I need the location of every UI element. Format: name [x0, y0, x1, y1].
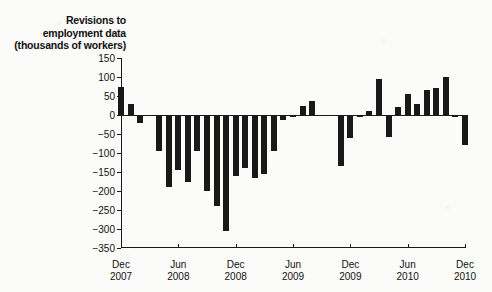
- bar: [242, 115, 248, 168]
- x-tick-label-month: Jun: [167, 259, 189, 271]
- bar: [319, 115, 325, 116]
- x-tick-label-month: Dec: [339, 259, 361, 271]
- bar: [357, 115, 363, 117]
- y-tick-label: −50: [98, 129, 115, 140]
- x-tick-mark: [121, 244, 122, 248]
- bar: [414, 104, 420, 115]
- x-tick-label-month: Dec: [225, 259, 247, 271]
- x-tick-label: Dec2010: [454, 259, 476, 282]
- bar: [424, 90, 430, 115]
- x-tick-label-month: Jun: [397, 259, 419, 271]
- y-tick-label: 0: [109, 110, 115, 121]
- y-tick-label: 150: [98, 53, 115, 64]
- bar: [261, 115, 267, 174]
- bar: [338, 115, 344, 166]
- y-tick-label: −300: [92, 224, 115, 235]
- x-tick-label-month: Dec: [454, 259, 476, 271]
- bar: [347, 115, 353, 138]
- bar: [376, 79, 382, 115]
- bar: [386, 115, 392, 137]
- x-tick-mark: [465, 244, 466, 248]
- bar: [194, 115, 200, 151]
- y-tick-label: −150: [92, 167, 115, 178]
- bar: [214, 115, 220, 206]
- bar: [204, 115, 210, 191]
- bar: [452, 115, 458, 117]
- bar: [280, 115, 286, 120]
- y-tick-label: −350: [92, 243, 115, 254]
- x-tick-mark: [408, 244, 409, 248]
- x-tick-label: Jun2009: [282, 259, 304, 282]
- bar: [443, 77, 449, 115]
- y-tick-mark: [117, 115, 121, 116]
- x-tick-label-year: 2009: [339, 271, 361, 283]
- bar: [328, 115, 334, 116]
- x-tick-label-month: Dec: [110, 259, 132, 271]
- bar: [175, 115, 181, 170]
- bar: [433, 88, 439, 115]
- x-tick-mark: [178, 244, 179, 248]
- y-tick-mark: [117, 58, 121, 59]
- y-tick-mark: [117, 172, 121, 173]
- y-tick-mark: [117, 229, 121, 230]
- y-tick-label: −250: [92, 205, 115, 216]
- chart-title: Revisions to employment data (thousands …: [0, 14, 126, 52]
- y-tick-label: 50: [104, 91, 115, 102]
- chart-title-line-1: Revisions to: [0, 14, 126, 27]
- x-tick-label-month: Jun: [282, 259, 304, 271]
- bar: [147, 115, 153, 116]
- y-tick-mark: [117, 210, 121, 211]
- y-tick-label: 100: [98, 72, 115, 83]
- x-tick-label: Dec2008: [225, 259, 247, 282]
- bar: [185, 115, 191, 182]
- x-tick-mark: [350, 244, 351, 248]
- x-tick-label-year: 2010: [454, 271, 476, 283]
- bar: [405, 94, 411, 115]
- x-tick-label: Dec2007: [110, 259, 132, 282]
- chart-title-line-3: (thousands of workers): [0, 39, 126, 52]
- chart-page: Revisions to employment data (thousands …: [0, 0, 492, 292]
- bar: [223, 115, 229, 231]
- y-tick-mark: [117, 77, 121, 78]
- x-tick-label-year: 2010: [397, 271, 419, 283]
- bar: [462, 115, 468, 145]
- bar: [137, 115, 143, 123]
- x-tick-mark: [293, 244, 294, 248]
- bar: [166, 115, 172, 187]
- x-tick-mark: [236, 244, 237, 248]
- x-tick-label: Dec2009: [339, 259, 361, 282]
- chart-title-line-2: employment data: [0, 27, 126, 40]
- bar: [300, 106, 306, 116]
- bar: [395, 107, 401, 115]
- bar: [252, 115, 258, 178]
- y-tick-mark: [117, 153, 121, 154]
- y-tick-label: −100: [92, 148, 115, 159]
- y-tick-label: −200: [92, 186, 115, 197]
- plot-area: 150100500−50−100−150−200−250−300−350 Dec…: [121, 58, 465, 248]
- bar: [118, 87, 124, 116]
- bar: [290, 115, 296, 117]
- bar: [309, 101, 315, 115]
- x-tick-label-year: 2008: [225, 271, 247, 283]
- x-tick-label-year: 2008: [167, 271, 189, 283]
- x-tick-label: Jun2008: [167, 259, 189, 282]
- x-tick-label-year: 2007: [110, 271, 132, 283]
- bar: [271, 115, 277, 151]
- y-tick-mark: [117, 248, 121, 249]
- x-tick-label-year: 2009: [282, 271, 304, 283]
- y-tick-mark: [117, 134, 121, 135]
- bar: [128, 104, 134, 115]
- bar: [233, 115, 239, 176]
- x-tick-label: Jun2010: [397, 259, 419, 282]
- y-tick-mark: [117, 191, 121, 192]
- bar: [156, 115, 162, 151]
- bar: [366, 111, 372, 115]
